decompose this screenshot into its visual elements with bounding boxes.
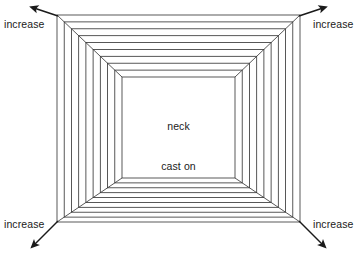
diagonal-top-left <box>57 15 122 77</box>
nested-rectangle-rings <box>57 15 300 222</box>
label-cast-on: cast on <box>0 160 357 172</box>
label-increase-bottom-left: increase <box>4 218 45 230</box>
label-neck: neck <box>0 120 357 132</box>
arrow-top-right <box>299 8 323 16</box>
diagonal-bottom-right <box>235 178 300 222</box>
knitting-diagram: increase increase increase increase neck… <box>0 0 357 255</box>
label-increase-top-right: increase <box>313 18 354 30</box>
diagonal-top-right <box>235 15 300 77</box>
diagonal-bottom-left <box>57 178 122 222</box>
label-increase-bottom-right: increase <box>313 218 354 230</box>
arrow-top-left <box>34 8 58 16</box>
label-increase-top-left: increase <box>4 18 45 30</box>
